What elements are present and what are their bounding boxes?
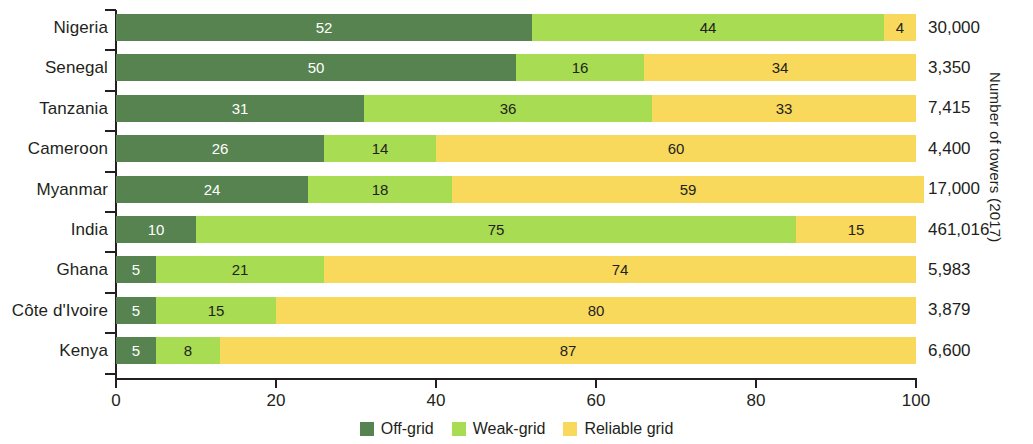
chart-row: Kenya58876,600 <box>0 337 1033 377</box>
chart-row: Nigeria5244430,000 <box>0 14 1033 54</box>
stacked-bar: 107515 <box>116 216 916 243</box>
bar-segment-reliable-grid: 80 <box>276 297 916 324</box>
legend-swatch-icon <box>452 422 466 436</box>
x-axis-tick-label: 100 <box>886 391 946 411</box>
chart-row: India107515461,016 <box>0 216 1033 256</box>
stacked-bar: 313633 <box>116 95 916 122</box>
bar-segment-value: 10 <box>148 222 165 237</box>
bar-segment-reliable-grid: 15 <box>796 216 916 243</box>
y-axis-tick <box>105 292 116 294</box>
bar-segment-weak-grid: 14 <box>324 135 436 162</box>
x-axis-tick-label: 80 <box>726 391 786 411</box>
legend-label: Off-grid <box>381 420 434 438</box>
bar-segment-value: 15 <box>848 222 865 237</box>
legend-item[interactable]: Reliable grid <box>563 420 673 438</box>
chart-row: Tanzania3136337,415 <box>0 95 1033 135</box>
stacked-bar-chart: Nigeria5244430,000Senegal5016343,350Tanz… <box>0 0 1033 444</box>
y-axis-tick <box>105 251 116 253</box>
y-axis-tick <box>105 332 116 334</box>
bar-segment-off-grid: 31 <box>116 95 364 122</box>
bar-segment-value: 74 <box>612 262 629 277</box>
stacked-bar: 501634 <box>116 54 916 81</box>
y-axis-tick <box>105 90 116 92</box>
legend-label: Weak-grid <box>473 420 546 438</box>
bar-segment-value: 16 <box>572 60 589 75</box>
bar-segment-value: 59 <box>680 182 697 197</box>
towers-value: 30,000 <box>928 14 1008 41</box>
bar-segment-reliable-grid: 74 <box>324 256 916 283</box>
category-label: Ghana <box>0 256 108 283</box>
legend-swatch-icon <box>360 422 374 436</box>
bar-segment-value: 80 <box>588 303 605 318</box>
bar-segment-value: 4 <box>896 20 904 35</box>
bar-segment-value: 36 <box>500 101 517 116</box>
category-label: Côte d'Ivoire <box>0 297 108 324</box>
bar-segment-reliable-grid: 33 <box>652 95 916 122</box>
x-axis-tick-label: 0 <box>86 391 146 411</box>
bar-segment-value: 52 <box>316 20 333 35</box>
bar-segment-value: 34 <box>772 60 789 75</box>
right-axis-title: Number of towers (2017) <box>987 72 1004 362</box>
legend-swatch-icon <box>563 422 577 436</box>
bar-segment-off-grid: 5 <box>116 256 156 283</box>
bar-segment-weak-grid: 75 <box>196 216 796 243</box>
bar-segment-weak-grid: 15 <box>156 297 276 324</box>
bar-segment-value: 33 <box>776 101 793 116</box>
chart-legend: Off-gridWeak-gridReliable grid <box>0 420 1033 438</box>
category-label: Kenya <box>0 337 108 364</box>
x-axis-tick <box>595 378 597 388</box>
bar-segment-value: 26 <box>212 141 229 156</box>
bar-segment-reliable-grid: 34 <box>644 54 916 81</box>
x-axis-tick <box>275 378 277 388</box>
y-axis-tick <box>105 9 116 11</box>
legend-item[interactable]: Off-grid <box>360 420 434 438</box>
bar-segment-reliable-grid: 60 <box>436 135 916 162</box>
bar-segment-weak-grid: 21 <box>156 256 324 283</box>
chart-row: Cameroon2614604,400 <box>0 135 1033 175</box>
x-axis-tick <box>755 378 757 388</box>
bar-segment-weak-grid: 8 <box>156 337 220 364</box>
category-label: India <box>0 216 108 243</box>
y-axis-tick <box>105 171 116 173</box>
chart-row: Senegal5016343,350 <box>0 54 1033 94</box>
stacked-bar: 5887 <box>116 337 916 364</box>
bar-segment-value: 5 <box>132 303 140 318</box>
bar-segment-value: 5 <box>132 262 140 277</box>
bar-segment-value: 18 <box>372 182 389 197</box>
chart-row: Côte d'Ivoire515803,879 <box>0 297 1033 337</box>
y-axis-tick <box>105 49 116 51</box>
category-label: Nigeria <box>0 14 108 41</box>
chart-page: Nigeria5244430,000Senegal5016343,350Tanz… <box>0 0 1033 444</box>
bar-segment-reliable-grid: 87 <box>220 337 916 364</box>
stacked-bar: 51580 <box>116 297 916 324</box>
x-axis-tick <box>115 378 117 388</box>
bar-segment-weak-grid: 16 <box>516 54 644 81</box>
legend-label: Reliable grid <box>584 420 673 438</box>
category-label: Cameroon <box>0 135 108 162</box>
bar-segment-value: 24 <box>204 182 221 197</box>
bar-segment-weak-grid: 18 <box>308 176 452 203</box>
bar-segment-off-grid: 50 <box>116 54 516 81</box>
bar-segment-off-grid: 5 <box>116 337 156 364</box>
category-label: Senegal <box>0 54 108 81</box>
legend-item[interactable]: Weak-grid <box>452 420 546 438</box>
bar-segment-off-grid: 5 <box>116 297 156 324</box>
bar-segment-off-grid: 10 <box>116 216 196 243</box>
bar-segment-value: 44 <box>700 20 717 35</box>
bar-segment-off-grid: 26 <box>116 135 324 162</box>
bar-segment-value: 31 <box>232 101 249 116</box>
chart-row: Myanmar24185917,000 <box>0 176 1033 216</box>
bar-segment-off-grid: 24 <box>116 176 308 203</box>
bar-segment-value: 87 <box>560 343 577 358</box>
category-label: Tanzania <box>0 95 108 122</box>
bar-segment-weak-grid: 44 <box>532 14 884 41</box>
bar-segment-value: 60 <box>668 141 685 156</box>
x-axis-line <box>115 378 917 380</box>
chart-row: Ghana521745,983 <box>0 256 1033 296</box>
bar-segment-value: 50 <box>308 60 325 75</box>
bar-segment-weak-grid: 36 <box>364 95 652 122</box>
y-axis-tick <box>105 373 116 375</box>
y-axis-tick <box>105 130 116 132</box>
stacked-bar: 241859 <box>116 176 924 203</box>
x-axis-tick-label: 60 <box>566 391 626 411</box>
